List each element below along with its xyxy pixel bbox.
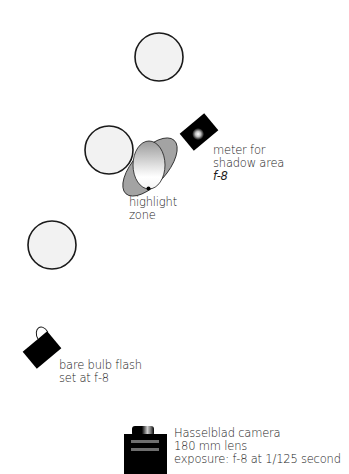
light-lower <box>28 221 76 269</box>
lighting-diagram <box>0 0 349 474</box>
meter-label: meter for shadow area f-8 <box>213 144 284 183</box>
subject-highlight <box>133 141 165 189</box>
camera-icon <box>124 426 167 474</box>
light-top <box>135 33 183 81</box>
light-middle <box>85 126 133 174</box>
camera-label: Hasselblad camera 180 mm lens exposure: … <box>174 427 341 466</box>
flash-icon <box>17 325 61 369</box>
flash-label: bare bulb flash set at f-8 <box>59 359 142 385</box>
highlight-point <box>147 187 151 191</box>
highlight-zone-label: highlight zone <box>129 196 177 222</box>
